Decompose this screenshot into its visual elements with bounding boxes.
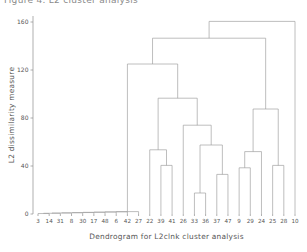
- dendrogram-link: [194, 193, 205, 214]
- leaf-label: 14: [46, 218, 54, 224]
- dendrogram-link: [209, 21, 295, 214]
- dendrogram-link: [183, 125, 211, 214]
- y-tick-label: 0: [25, 210, 29, 217]
- leaf-label: 41: [169, 218, 177, 224]
- leaf-label: 8: [70, 218, 74, 224]
- leaf-label: 37: [213, 218, 221, 224]
- dendrogram-link: [217, 174, 228, 214]
- leaf-label: 31: [57, 218, 65, 224]
- leaf-label: 33: [191, 218, 199, 224]
- clipped-top-caption: Figure 4. L2 cluster analysis: [4, 0, 138, 5]
- leaf-label: 39: [157, 218, 165, 224]
- leaf-label: 3: [36, 218, 40, 224]
- axes-group: 04080120160: [17, 16, 300, 217]
- dendrogram-link: [127, 64, 177, 212]
- leaf-label: 9: [237, 218, 241, 224]
- dendrogram-link: [253, 109, 278, 165]
- leaf-label: 24: [258, 218, 266, 224]
- dendrogram-link: [245, 152, 262, 214]
- leaf-label: 47: [224, 218, 232, 224]
- dendrogram-link: [239, 168, 250, 214]
- dendrogram-figure: Figure 4. L2 cluster analysis 0408012016…: [0, 0, 307, 252]
- y-tick-label: 120: [17, 66, 29, 73]
- leaf-label: 28: [280, 218, 288, 224]
- leaf-label: 10: [291, 218, 299, 224]
- y-tick-label: 40: [21, 162, 29, 169]
- leaf-label: 42: [124, 218, 131, 224]
- dendrogram-links-group: [38, 21, 295, 214]
- leaf-labels-group: 3143183017486422722394126333637479292425…: [36, 214, 299, 224]
- leaf-label: 48: [101, 218, 109, 224]
- dendrogram-link: [161, 165, 172, 214]
- leaf-label: 30: [79, 218, 87, 224]
- y-tick-label: 160: [17, 18, 29, 25]
- y-axis-title: L2 dissimilarity measure: [7, 67, 16, 164]
- leaf-label: 22: [146, 218, 153, 224]
- dendrogram-link: [273, 165, 284, 214]
- dendrogram-link: [158, 98, 197, 150]
- x-axis-title: Dendrogram for L2clnk cluster analysis: [89, 232, 244, 241]
- dendrogram-plot: 0408012016031431830174864227223941263336…: [0, 0, 307, 252]
- leaf-label: 26: [180, 218, 188, 224]
- dendrogram-link: [150, 150, 167, 214]
- dendrogram-link: [200, 145, 222, 193]
- leaf-label: 25: [269, 218, 277, 224]
- y-tick-label: 80: [21, 114, 29, 121]
- leaf-label: 17: [90, 218, 98, 224]
- leaf-label: 29: [247, 218, 255, 224]
- leaf-label: 6: [114, 218, 118, 224]
- leaf-label: 36: [202, 218, 210, 224]
- leaf-label: 27: [135, 218, 143, 224]
